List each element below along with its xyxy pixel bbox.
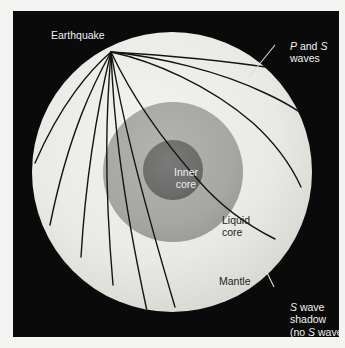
label-shadow-line2: shadow: [290, 313, 339, 325]
label-liquid-core-line2: core: [222, 226, 250, 238]
label-mantle-text: Mantle: [219, 275, 251, 287]
label-shadow-close-paren: waves): [315, 326, 339, 337]
label-p-italic: P: [290, 40, 297, 52]
label-inner-core-line2: core: [161, 178, 211, 190]
label-p-and-s-line1: P and S: [290, 40, 327, 52]
diagram-panel: Earthquake P and S waves S wave shadow (…: [13, 11, 339, 337]
label-p-and-s-waves: P and S waves: [290, 40, 327, 65]
label-shadow-line3: (no S waves): [290, 326, 339, 337]
label-earthquake-text: Earthquake: [51, 29, 105, 41]
label-and-text: and: [297, 40, 320, 52]
label-shadow-line1: S wave: [290, 301, 339, 313]
label-inner-core: Inner core: [161, 166, 211, 191]
label-shadow-open-paren: (no: [290, 326, 308, 337]
label-shadow-s-italic: S: [290, 301, 297, 313]
label-shadow-wave-text: wave: [297, 301, 324, 313]
label-s-wave-shadow: S wave shadow (no S waves): [290, 301, 339, 337]
label-s-italic: S: [320, 40, 327, 52]
figure-container: Earthquake P and S waves S wave shadow (…: [0, 0, 345, 348]
label-earthquake: Earthquake: [51, 29, 105, 41]
label-inner-core-line1: Inner: [161, 166, 211, 178]
label-mantle: Mantle: [219, 275, 251, 287]
label-p-and-s-line2: waves: [290, 52, 327, 64]
label-liquid-core-line1: Liquid: [222, 214, 250, 226]
label-liquid-core: Liquid core: [222, 214, 250, 239]
